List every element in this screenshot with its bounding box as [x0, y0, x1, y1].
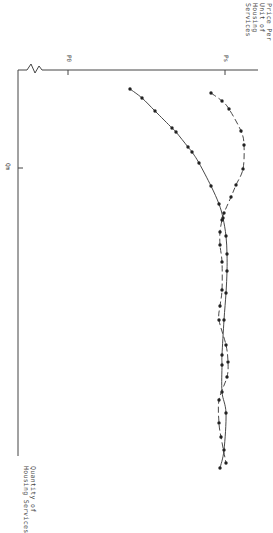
data-point-marker — [234, 183, 237, 186]
data-point-marker — [220, 218, 223, 221]
tick-label-ps: Ps — [223, 55, 230, 62]
data-point-marker — [220, 353, 223, 356]
data-point-marker — [197, 161, 200, 164]
data-point-marker — [186, 145, 189, 148]
data-point-marker — [190, 150, 193, 153]
data-point-marker — [170, 126, 173, 129]
data-point-marker — [209, 184, 212, 187]
data-point-marker — [224, 343, 227, 346]
data-point-marker — [128, 87, 131, 90]
data-point-marker — [241, 167, 244, 170]
data-point-marker — [220, 288, 223, 291]
data-point-marker — [224, 411, 227, 414]
data-point-marker — [224, 291, 227, 294]
data-point-marker — [217, 202, 220, 205]
data-point-marker — [242, 143, 245, 146]
data-point-marker — [225, 269, 228, 272]
data-point-marker — [217, 421, 220, 424]
data-point-marker — [140, 96, 143, 99]
data-point-marker — [217, 318, 220, 321]
tick-label-p0: P0 — [66, 55, 73, 62]
data-point-marker — [227, 107, 230, 110]
data-point-marker — [220, 260, 223, 263]
price-axis — [18, 64, 258, 73]
data-point-marker — [225, 252, 228, 255]
data-point-marker — [225, 375, 228, 378]
data-point-marker — [218, 230, 221, 233]
data-point-marker — [224, 234, 227, 237]
solid-curve-line — [130, 89, 227, 468]
data-point-marker — [226, 360, 229, 363]
data-point-marker — [220, 99, 223, 102]
data-point-marker — [222, 211, 225, 214]
data-point-marker — [174, 130, 177, 133]
data-point-marker — [219, 435, 222, 438]
data-point-marker — [224, 461, 227, 464]
data-point-marker — [218, 466, 221, 469]
y-axis-label: Price Per Unit of Housing Services — [244, 3, 272, 41]
data-point-marker — [229, 195, 232, 198]
data-point-marker — [209, 91, 212, 94]
data-point-marker — [220, 363, 223, 366]
x-axis-label: Quantity of Housing Services — [22, 466, 36, 533]
tick-label-qm: Qm — [5, 163, 12, 170]
data-point-marker — [153, 109, 156, 112]
dashed-curve-line — [211, 93, 244, 463]
data-point-marker — [218, 304, 221, 307]
series-layer — [128, 87, 245, 469]
data-point-marker — [222, 318, 225, 321]
data-point-marker — [239, 129, 242, 132]
data-point-marker — [222, 448, 225, 451]
data-point-marker — [218, 243, 221, 246]
data-point-marker — [217, 398, 220, 401]
